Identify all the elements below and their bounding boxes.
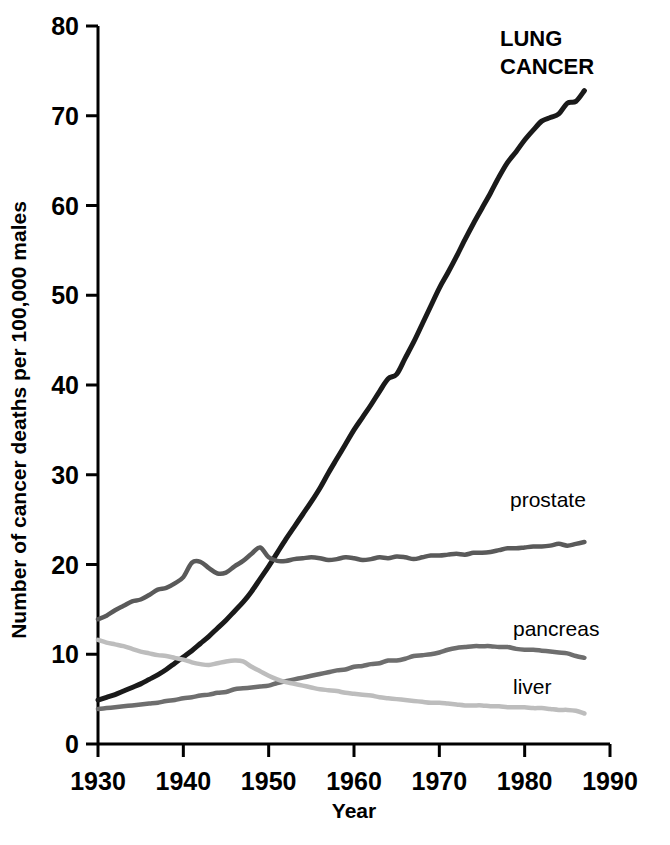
x-axis-ticks: 1930194019501960197019801990 <box>70 744 638 795</box>
series-label-liver: liver <box>513 675 552 698</box>
y-tick-label: 40 <box>51 371 79 399</box>
x-tick-label: 1990 <box>582 767 638 795</box>
y-tick-label: 50 <box>51 281 79 309</box>
series-label-lung-line2: CANCER <box>500 54 594 79</box>
y-tick-label: 60 <box>51 192 79 220</box>
x-tick-label: 1930 <box>70 767 126 795</box>
series-label-lung-line1: LUNG <box>500 26 562 51</box>
x-tick-label: 1940 <box>156 767 212 795</box>
y-tick-label: 10 <box>51 640 79 668</box>
x-tick-label: 1970 <box>412 767 468 795</box>
y-tick-label: 70 <box>51 102 79 130</box>
x-tick-label: 1950 <box>241 767 297 795</box>
y-tick-label: 0 <box>65 730 79 758</box>
x-axis-title: Year <box>332 799 376 822</box>
series-line-lung-cancer <box>98 91 584 700</box>
x-tick-label: 1960 <box>326 767 382 795</box>
y-axis-title: Number of cancer deaths per 100,000 male… <box>7 201 30 639</box>
y-tick-label: 30 <box>51 461 79 489</box>
chart-svg: 01020304050607080 1930194019501960197019… <box>0 0 670 845</box>
series-label-prostate: prostate <box>510 488 586 511</box>
series-label-pancreas: pancreas <box>513 617 599 640</box>
x-tick-label: 1980 <box>497 767 553 795</box>
cancer-mortality-line-chart: 01020304050607080 1930194019501960197019… <box>0 0 670 845</box>
series-paths-group <box>98 91 584 714</box>
series-line-prostate <box>98 542 584 619</box>
y-tick-label: 20 <box>51 551 79 579</box>
y-axis-ticks: 01020304050607080 <box>51 12 98 758</box>
y-tick-label: 80 <box>51 12 79 40</box>
